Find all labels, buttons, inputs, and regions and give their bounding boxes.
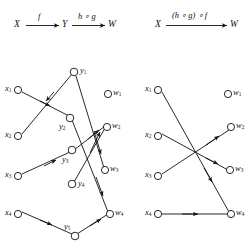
label-x1: x1 — [5, 84, 11, 94]
node-x4[interactable] — [14, 210, 21, 217]
right-arrow-composition-label: (h ∘ g) ∘ f — [172, 11, 207, 20]
label-y4: y4 — [78, 179, 84, 189]
label-y1: y1 — [80, 66, 86, 76]
head-x2-w3 — [206, 158, 218, 164]
node-right-w4[interactable] — [227, 210, 234, 217]
label-right-w1-sub: 1 — [239, 91, 242, 97]
label-w2: w2 — [112, 121, 120, 131]
label-right-w2-sub: 2 — [242, 124, 245, 130]
node-y3[interactable] — [68, 146, 76, 154]
diagram-svg — [0, 0, 248, 248]
label-x1-sub: 1 — [9, 87, 12, 93]
label-x2: x2 — [5, 130, 11, 140]
label-y2: y2 — [59, 122, 65, 132]
left-arrow-middle-label: Y — [62, 20, 67, 30]
figure-canvas: X f Y h ∘ g W X (h ∘ g) ∘ f W x1 x2 x3 x… — [0, 0, 248, 248]
label-right-w4: w4 — [236, 208, 244, 218]
left-graph-arrowheads — [40, 92, 103, 226]
head-x1-w4 — [204, 168, 212, 182]
label-y3-sub: 3 — [66, 158, 69, 164]
node-x2[interactable] — [14, 132, 21, 139]
edge-y2-w4 — [72, 120, 108, 212]
head-y2-w4 — [96, 177, 103, 196]
label-right-x1: x1 — [145, 84, 151, 94]
label-right-w3: w3 — [235, 164, 243, 174]
label-w4-sub: 4 — [121, 211, 124, 217]
node-y5[interactable] — [71, 232, 79, 240]
label-w3: w3 — [110, 164, 118, 174]
node-right-x1[interactable] — [154, 86, 161, 93]
label-right-w4-sub: 4 — [242, 211, 245, 217]
label-x4-sub: 4 — [9, 211, 12, 217]
left-arrow-first-label: f — [38, 12, 40, 21]
label-y3: y3 — [62, 155, 68, 165]
left-arrow-second-label: h ∘ g — [78, 12, 96, 21]
label-y5: y5 — [64, 222, 70, 232]
label-right-x4-sub: 4 — [149, 211, 152, 217]
label-right-x2: x2 — [145, 130, 151, 140]
edge-x3-w2 — [162, 130, 229, 174]
label-y1-sub: 1 — [84, 69, 87, 75]
label-x2-sub: 2 — [9, 133, 12, 139]
head-x3-w2 — [206, 136, 219, 145]
node-right-x4[interactable] — [154, 210, 161, 217]
left-arrow-target-label: W — [108, 20, 116, 30]
node-right-w3[interactable] — [226, 166, 233, 173]
node-y4[interactable] — [68, 180, 76, 188]
label-w1-sub: 1 — [119, 91, 122, 97]
label-w3-sub: 3 — [116, 167, 119, 173]
node-right-w2[interactable] — [227, 123, 234, 130]
label-x4: x4 — [5, 208, 11, 218]
label-w2-sub: 2 — [118, 124, 121, 130]
right-arrow-source-label: X — [155, 20, 161, 30]
right-arrow-target-label: W — [230, 20, 238, 30]
label-right-w1: w1 — [233, 88, 241, 98]
node-w1[interactable] — [104, 90, 111, 97]
node-y1[interactable] — [70, 68, 78, 76]
node-right-x2[interactable] — [154, 132, 161, 139]
head-x4-y5 — [40, 220, 52, 225]
label-w4: w4 — [115, 208, 123, 218]
label-x3-sub: 3 — [9, 173, 12, 179]
label-y4-sub: 4 — [82, 182, 85, 188]
label-y5-sub: 5 — [68, 225, 71, 231]
node-w4[interactable] — [106, 210, 113, 217]
right-graph-edges — [162, 92, 229, 214]
label-right-w3-sub: 3 — [241, 167, 244, 173]
label-right-x1-sub: 1 — [149, 87, 152, 93]
label-right-x3-sub: 3 — [149, 173, 152, 179]
node-y2[interactable] — [66, 114, 74, 122]
node-w3[interactable] — [101, 166, 108, 173]
label-y2-sub: 2 — [63, 125, 66, 131]
node-x3[interactable] — [14, 172, 21, 179]
label-right-x2-sub: 2 — [149, 133, 152, 139]
label-w1: w1 — [113, 88, 121, 98]
node-x1[interactable] — [14, 86, 21, 93]
label-x3: x3 — [5, 170, 11, 180]
node-w2[interactable] — [103, 123, 110, 130]
head-y5-w4 — [90, 219, 101, 226]
node-right-w1[interactable] — [224, 90, 231, 97]
node-right-x3[interactable] — [154, 172, 161, 179]
label-right-w2: w2 — [236, 121, 244, 131]
label-right-x4: x4 — [145, 208, 151, 218]
left-arrow-source-label: X — [14, 20, 20, 30]
label-right-x3: x3 — [145, 170, 151, 180]
